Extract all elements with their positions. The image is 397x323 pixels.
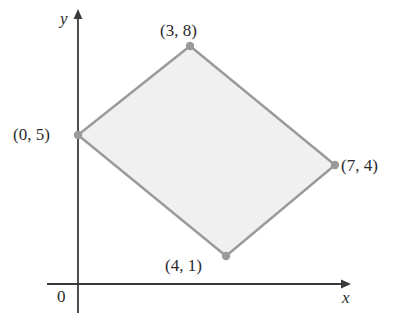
vertex-dot-3-8 [186,42,194,50]
vertex-label-4-1: (4, 1) [165,257,202,274]
coordinate-plane-figure: (3, 8) (0, 5) (7, 4) (4, 1) y x 0 [0,0,397,323]
vertex-label-3-8: (3, 8) [160,22,197,39]
vertex-label-7-4: (7, 4) [341,157,378,174]
vertex-dot-7-4 [331,161,339,169]
vertex-dot-0-5 [74,131,82,139]
y-axis-label: y [60,10,68,27]
vertex-dot-4-1 [222,252,230,260]
x-axis-label: x [342,289,350,306]
vertex-label-0-5: (0, 5) [13,126,50,143]
quadrilateral-shape [78,46,335,256]
origin-label: 0 [57,288,66,305]
y-axis-arrowhead [74,9,83,19]
